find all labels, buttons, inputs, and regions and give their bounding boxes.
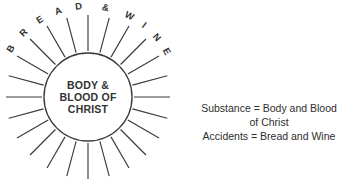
ray (9, 109, 44, 118)
caption-block: Substance = Body and Bloodof ChristAccid… (201, 102, 337, 142)
caption-line: of Christ (249, 116, 288, 128)
ray (47, 137, 65, 168)
ray (121, 130, 146, 155)
host-text-line: CHRIST (68, 103, 109, 115)
ray (9, 76, 44, 85)
eucharist-diagram: BODY &BLOOD OFCHRIST BREAD&WINE Substanc… (0, 0, 363, 184)
caption-line: Substance = Body and Blood (201, 102, 337, 114)
ray (132, 109, 167, 118)
ray (128, 56, 159, 74)
ray (100, 141, 109, 176)
arc-letter: R (17, 26, 30, 39)
arc-letter: & (101, 1, 110, 13)
arc-letter: E (161, 46, 174, 57)
ray (111, 26, 129, 57)
arc-letter: I (140, 20, 149, 30)
ray (111, 137, 129, 168)
caption-line: Accidents = Bread and Wine (203, 130, 336, 142)
arc-letter: B (4, 43, 17, 55)
arc-letter: W (123, 9, 136, 23)
arc-letter: N (151, 31, 164, 43)
ray (128, 120, 159, 138)
ray (67, 141, 76, 176)
monstrance-illustration: BODY &BLOOD OFCHRIST BREAD&WINE Substanc… (0, 0, 363, 184)
ray (17, 120, 48, 138)
ray (30, 130, 55, 155)
ray (100, 18, 109, 53)
ray (132, 76, 167, 85)
host-text-line: BLOOD OF (59, 91, 116, 103)
host-text-line: BODY & (67, 79, 109, 91)
arc-letter: D (74, 0, 82, 12)
ray (17, 56, 48, 74)
arc-letter: E (34, 13, 45, 26)
ray (30, 39, 55, 64)
ray (121, 39, 146, 64)
ray (47, 26, 65, 57)
arc-letter: A (53, 4, 63, 17)
ray (67, 18, 76, 53)
arc-label-bread-and-wine: BREAD&WINE (4, 0, 174, 57)
